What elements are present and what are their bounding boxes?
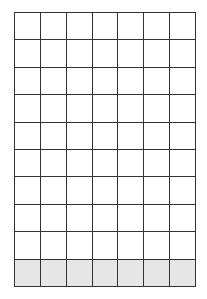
- grid-cell: [118, 123, 144, 150]
- grid-cell: [41, 68, 67, 95]
- grid-cell: [144, 205, 170, 232]
- grid-cell: [144, 40, 170, 67]
- grid-cell: [41, 177, 67, 204]
- grid-cell: [93, 95, 119, 122]
- grid-cell: [170, 123, 196, 150]
- grid-cell: [118, 150, 144, 177]
- grid-cell: [170, 205, 196, 232]
- grid-cell: [41, 40, 67, 67]
- grid-cell: [15, 177, 41, 204]
- grid-cell: [118, 13, 144, 40]
- grid-cell: [15, 232, 41, 259]
- grid-cell: [67, 205, 93, 232]
- shaded-grid-cell: [41, 260, 67, 287]
- grid-cell: [118, 68, 144, 95]
- grid-table: [14, 12, 196, 287]
- grid-cell: [41, 232, 67, 259]
- grid-cell: [93, 150, 119, 177]
- grid-cell: [15, 123, 41, 150]
- grid-cell: [170, 95, 196, 122]
- grid-cell: [15, 95, 41, 122]
- grid-cell: [41, 123, 67, 150]
- grid-cell: [170, 68, 196, 95]
- grid-cell: [170, 150, 196, 177]
- grid-cell: [15, 40, 41, 67]
- grid-cell: [41, 205, 67, 232]
- grid-cell: [41, 13, 67, 40]
- grid-cell: [67, 177, 93, 204]
- grid-cell: [41, 150, 67, 177]
- grid-cell: [170, 13, 196, 40]
- grid-cell: [118, 205, 144, 232]
- grid-cell: [67, 232, 93, 259]
- grid-cell: [93, 232, 119, 259]
- shaded-grid-cell: [118, 260, 144, 287]
- grid-cell: [144, 13, 170, 40]
- grid-cell: [144, 150, 170, 177]
- shaded-grid-cell: [67, 260, 93, 287]
- grid-cell: [118, 95, 144, 122]
- shaded-grid-cell: [144, 260, 170, 287]
- grid-cell: [93, 40, 119, 67]
- grid-cell: [67, 123, 93, 150]
- grid-cell: [15, 150, 41, 177]
- grid-cell: [41, 95, 67, 122]
- grid-cell: [118, 232, 144, 259]
- grid-cell: [15, 13, 41, 40]
- grid-cell: [93, 205, 119, 232]
- grid-cell: [118, 40, 144, 67]
- grid-cell: [144, 68, 170, 95]
- grid-cell: [93, 123, 119, 150]
- grid-cell: [15, 205, 41, 232]
- grid-cell: [93, 13, 119, 40]
- grid-cell: [15, 68, 41, 95]
- grid-cell: [144, 95, 170, 122]
- grid-cell: [170, 177, 196, 204]
- grid-cell: [144, 123, 170, 150]
- grid-cell: [118, 177, 144, 204]
- grid-cell: [144, 177, 170, 204]
- grid-cell: [67, 95, 93, 122]
- shaded-grid-cell: [170, 260, 196, 287]
- grid-cell: [67, 150, 93, 177]
- grid-cell: [144, 232, 170, 259]
- shaded-grid-cell: [15, 260, 41, 287]
- grid-cell: [67, 13, 93, 40]
- shaded-grid-cell: [93, 260, 119, 287]
- grid-cell: [170, 232, 196, 259]
- grid-cell: [170, 40, 196, 67]
- grid-cell: [93, 177, 119, 204]
- grid-cell: [67, 40, 93, 67]
- grid-cell: [67, 68, 93, 95]
- grid-cell: [93, 68, 119, 95]
